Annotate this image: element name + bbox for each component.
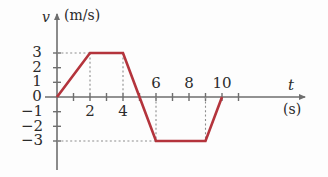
x-tick-label-2: 2 <box>81 104 99 119</box>
y-axis-unit: (m/s) <box>64 8 100 22</box>
velocity-time-figure: v (m/s) t (s) 3 2 1 0 −1 −2 −3 2 4 6 8 1… <box>0 0 328 177</box>
x-tick-label-6: 6 <box>147 76 165 91</box>
x-tick-label-8: 8 <box>180 76 198 91</box>
x-axis-unit: (s) <box>283 102 301 116</box>
y-tick-label-minus3: −3 <box>18 133 46 148</box>
x-tick-label-10: 10 <box>210 76 234 91</box>
y-axis-symbol: v <box>42 10 50 24</box>
x-axis-symbol: t <box>288 78 294 93</box>
x-tick-label-4: 4 <box>114 104 132 119</box>
